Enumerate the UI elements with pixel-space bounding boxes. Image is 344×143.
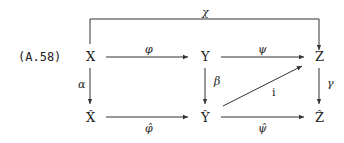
commutative-diagram: (A.58) χ X Y Z X̂ Ŷ Ẑ φ ψ φ̂ ψ̂ α β γ i — [0, 0, 344, 143]
label-phi-hat: φ̂ — [145, 122, 153, 135]
arrow-i — [223, 66, 302, 106]
node-z-hat: Ẑ — [315, 110, 324, 125]
arrow-chi — [90, 19, 319, 50]
node-z: Z — [315, 49, 324, 64]
label-i: i — [272, 86, 276, 99]
node-y-hat: Ŷ — [200, 110, 210, 125]
equation-number: (A.58) — [18, 50, 61, 64]
label-psi: ψ — [258, 43, 267, 56]
label-phi: φ — [145, 43, 153, 56]
label-gamma: γ — [327, 77, 334, 90]
node-x-hat: X̂ — [86, 110, 96, 125]
label-alpha: α — [78, 78, 86, 91]
label-psi-hat: ψ̂ — [258, 122, 267, 135]
label-beta: β — [213, 75, 220, 88]
node-y: Y — [200, 49, 210, 64]
node-x: X — [86, 49, 96, 64]
label-chi: χ — [201, 6, 210, 19]
